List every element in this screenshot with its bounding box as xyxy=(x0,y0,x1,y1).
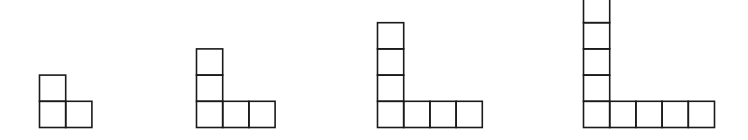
vertical-arm-square xyxy=(197,49,223,75)
figures-layer xyxy=(40,0,715,128)
corner-square xyxy=(378,101,404,127)
vertical-arm-square xyxy=(40,75,66,101)
vertical-arm-square xyxy=(584,0,610,23)
vertical-arm-square xyxy=(378,75,404,101)
l-figure-step-4 xyxy=(584,0,715,128)
horizontal-arm-square xyxy=(636,101,662,127)
l-shape-pattern-diagram xyxy=(0,0,748,140)
vertical-arm-square xyxy=(197,75,223,101)
horizontal-arm-square xyxy=(662,101,688,127)
horizontal-arm-square xyxy=(66,101,92,127)
horizontal-arm-square xyxy=(688,101,714,127)
corner-square xyxy=(40,101,66,127)
l-figure-step-1 xyxy=(40,75,92,127)
horizontal-arm-square xyxy=(610,101,636,127)
corner-square xyxy=(197,101,223,127)
l-figure-step-2 xyxy=(197,49,276,128)
vertical-arm-square xyxy=(378,49,404,75)
vertical-arm-square xyxy=(584,75,610,101)
horizontal-arm-square xyxy=(456,101,482,127)
horizontal-arm-square xyxy=(404,101,430,127)
horizontal-arm-square xyxy=(249,101,275,127)
corner-square xyxy=(584,101,610,127)
l-figure-step-3 xyxy=(378,23,483,128)
vertical-arm-square xyxy=(378,23,404,49)
horizontal-arm-square xyxy=(430,101,456,127)
vertical-arm-square xyxy=(584,49,610,75)
horizontal-arm-square xyxy=(223,101,249,127)
vertical-arm-square xyxy=(584,23,610,49)
